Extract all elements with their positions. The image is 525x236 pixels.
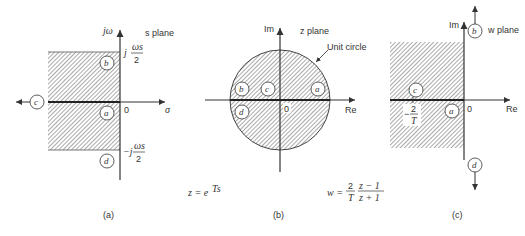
s-plane-title: s plane	[145, 28, 174, 38]
unit-circle-pointer	[316, 50, 328, 62]
svg-text:z + 1: z + 1	[358, 192, 380, 203]
svg-text:a: a	[449, 106, 454, 116]
svg-text:b: b	[104, 58, 109, 68]
unit-circle-label: Unit circle	[327, 42, 367, 52]
svg-text:a: a	[315, 84, 320, 94]
lower-bound-num: ωs	[134, 140, 145, 151]
panel-s-plane: jω s plane 0 σ j ωs 2 −j ωs 2 b c a d (a…	[16, 25, 174, 220]
panel-w-plane: Im w plane 0 Re − 2 T b c a d (c)	[390, 6, 519, 220]
svg-text:w =: w =	[327, 187, 343, 198]
svg-text:a: a	[104, 108, 109, 118]
svg-text:b: b	[472, 26, 477, 36]
point-c: c	[409, 83, 423, 97]
caption-c: (c)	[452, 210, 463, 220]
point-c: c	[30, 95, 44, 109]
svg-text:z − 1: z − 1	[358, 180, 380, 191]
svg-text:T: T	[348, 192, 355, 203]
origin-label: 0	[467, 104, 472, 114]
upper-bound-den: 2	[134, 55, 139, 65]
point-c: c	[261, 82, 275, 96]
w-mapping-equation: w = 2 T z − 1 z + 1	[327, 180, 384, 203]
marker-num: 2	[411, 104, 416, 114]
svg-text:Ts: Ts	[212, 183, 221, 194]
point-a: a	[445, 104, 459, 118]
point-d: d	[468, 158, 482, 172]
point-d: d	[100, 154, 114, 168]
point-a: a	[100, 106, 114, 120]
z-plane-title: z plane	[300, 26, 329, 36]
svg-text:z = e: z = e	[187, 187, 209, 198]
z-mapping-equation: z = e Ts	[187, 183, 221, 198]
re-axis-label: Re	[506, 104, 518, 114]
svg-text:d: d	[239, 107, 244, 117]
im-axis-label: Im	[449, 20, 459, 30]
svg-text:c: c	[413, 85, 417, 95]
point-b: b	[100, 56, 114, 70]
svg-text:c: c	[265, 84, 269, 94]
mapping-diagram: jω s plane 0 σ j ωs 2 −j ωs 2 b c a d (a…	[0, 0, 525, 236]
point-b: b	[235, 82, 249, 96]
left-half-plane-hatch	[390, 42, 464, 148]
jw-axis-label: jω	[101, 25, 113, 36]
svg-text:c: c	[34, 97, 38, 107]
svg-text:d: d	[472, 160, 477, 170]
w-plane-title: w plane	[487, 25, 519, 35]
lower-bound-den: 2	[136, 154, 141, 164]
point-d: d	[235, 105, 249, 119]
upper-bound-prefix: j	[122, 47, 127, 58]
re-axis-label: Re	[345, 105, 357, 115]
im-axis-label: Im	[264, 24, 274, 34]
svg-text:2: 2	[348, 181, 353, 191]
caption-a: (a)	[103, 210, 114, 220]
lower-bound-prefix: −j	[123, 146, 133, 157]
point-b: b	[468, 24, 482, 38]
origin-label: 0	[284, 104, 289, 114]
caption-b: (b)	[273, 210, 284, 220]
sigma-axis-label: σ	[165, 104, 171, 115]
svg-text:d: d	[104, 156, 109, 166]
marker-prefix: −	[404, 109, 409, 119]
point-a: a	[311, 82, 325, 96]
svg-text:b: b	[239, 84, 244, 94]
upper-bound-num: ωs	[132, 41, 143, 52]
origin-label: 0	[124, 105, 129, 115]
